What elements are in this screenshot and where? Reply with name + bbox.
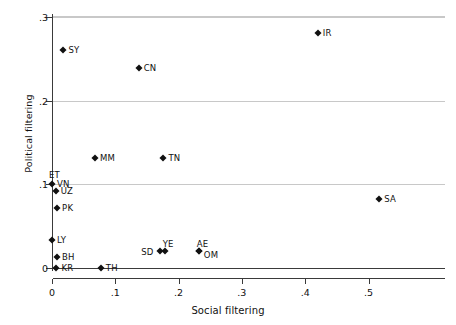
- x-tick-label: .4: [301, 287, 310, 298]
- data-point-label: UZ: [61, 186, 73, 196]
- data-point-label: SD: [141, 247, 153, 257]
- data-point-label: OM: [204, 250, 218, 260]
- x-tick-label: .1: [111, 287, 120, 298]
- y-axis-title: Political filtering: [23, 94, 34, 172]
- data-point-label: YE: [163, 239, 174, 249]
- x-tick-label: .5: [364, 287, 373, 298]
- y-axis-title-wrap: Political filtering: [23, 44, 34, 224]
- data-point-label: CN: [144, 63, 157, 73]
- data-point-label: SA: [384, 194, 396, 204]
- data-point-label: BH: [62, 252, 75, 262]
- x-tick-label: .2: [174, 287, 183, 298]
- y-tick-label: .3: [20, 11, 48, 22]
- data-point-label: TN: [168, 153, 180, 163]
- y-tick-label: 0: [20, 263, 48, 274]
- data-point-label: PK: [62, 203, 73, 213]
- data-point-label: KR: [61, 263, 73, 273]
- data-point-label: TH: [106, 263, 118, 273]
- data-point-label: LY: [57, 235, 66, 245]
- axes: [53, 14, 446, 279]
- data-point-label: MM: [100, 153, 115, 163]
- data-point-label: AE: [197, 239, 209, 249]
- x-axis-title: Social filtering: [0, 305, 456, 316]
- data-point-label: SY: [68, 45, 79, 55]
- x-tick-label: 0: [49, 287, 55, 298]
- x-tick-label: .3: [237, 287, 246, 298]
- scatter-chart: IRSYCNMMTNETVNUZPKSALYYEAESDOMBHKRTH 0.1…: [0, 0, 456, 325]
- data-point-label: IR: [323, 28, 332, 38]
- gridlines: [52, 17, 445, 269]
